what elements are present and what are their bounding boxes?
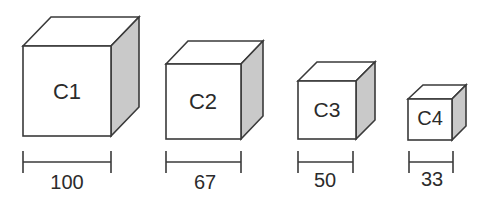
- cube-c3-dimension-value: 50: [314, 169, 336, 191]
- cube-c2-dimension-value: 67: [194, 171, 216, 193]
- cube-c1: C1 100: [23, 17, 139, 193]
- cube-c2: C2 67: [166, 41, 263, 193]
- cube-size-diagram: C1 100 C2 67 C3 50: [0, 0, 494, 207]
- cube-c1-dimension-line: [23, 151, 111, 173]
- cube-c1-dimension-value: 100: [50, 171, 83, 193]
- cube-c4-label: C4: [417, 107, 443, 129]
- cube-c1-label: C1: [53, 79, 81, 104]
- cube-c4-dimension-value: 33: [421, 168, 443, 190]
- cube-c3-label: C3: [314, 98, 341, 121]
- cube-c3: C3 50: [298, 62, 375, 191]
- cube-c4: C4 33: [408, 85, 466, 190]
- cube-c2-label: C2: [189, 89, 217, 114]
- cube-c2-dimension-line: [166, 151, 241, 173]
